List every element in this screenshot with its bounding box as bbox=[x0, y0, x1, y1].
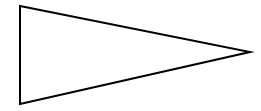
drawing-canvas bbox=[0, 0, 261, 111]
triangle-shape-svg bbox=[0, 0, 261, 111]
canvas-background bbox=[0, 0, 261, 111]
